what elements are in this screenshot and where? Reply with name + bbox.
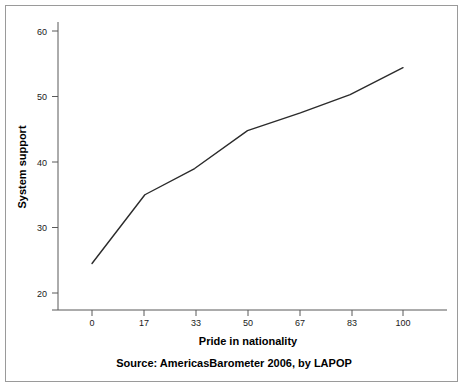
data-series-line [92,68,403,264]
y-tick-label-30: 30 [37,223,47,233]
x-axis-title: Pride in nationality [199,335,298,347]
x-tick-label-0: 0 [89,318,94,328]
x-tick-label-83: 83 [347,318,357,328]
y-tick-label-20: 20 [37,289,47,299]
y-tick-label-40: 40 [37,158,47,168]
source-note: Source: AmericasBarometer 2006, by LAPOP [116,357,352,369]
plot-area: 60 50 40 30 20 0 17 33 50 67 83 100 [0,0,463,387]
x-tick-label-50: 50 [243,318,253,328]
x-tick-label-67: 67 [295,318,305,328]
chart-figure: 60 50 40 30 20 0 17 33 50 67 83 100 [0,0,463,387]
y-axis-title: System support [16,125,28,208]
y-tick-label-60: 60 [37,27,47,37]
x-tick-label-17: 17 [139,318,149,328]
y-axis-ticks [52,31,58,293]
y-tick-label-50: 50 [37,92,47,102]
x-axis-ticks [92,310,403,316]
x-tick-label-100: 100 [395,318,410,328]
line-chart-svg: 60 50 40 30 20 0 17 33 50 67 83 100 [0,0,463,387]
x-tick-label-33: 33 [191,318,201,328]
